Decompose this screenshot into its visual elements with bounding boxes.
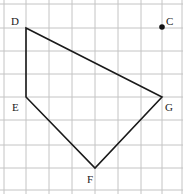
label-e: E	[12, 101, 19, 113]
label-g: G	[165, 101, 173, 113]
grid-diagram: D C E G F	[0, 0, 183, 194]
label-f: F	[87, 173, 93, 185]
label-c: C	[166, 15, 173, 27]
point-c-dot	[159, 24, 165, 30]
polygon-DGFE	[26, 28, 162, 168]
label-d: D	[11, 15, 19, 27]
